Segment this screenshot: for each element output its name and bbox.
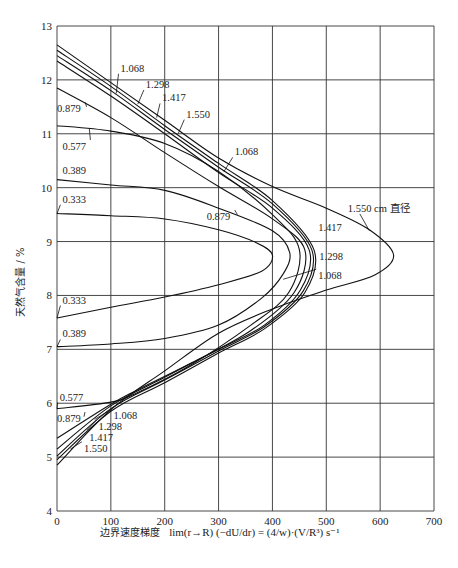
- y-axis-label: 天然气含量 / %: [14, 247, 26, 316]
- curve-label: 0.333: [62, 194, 86, 205]
- curve-label: 0.389: [62, 328, 86, 339]
- y-tick-label: 8: [47, 289, 53, 301]
- x-axis-label-formula: lim(r→R) (−dU/dr) = (4/w)·(V/R³) s⁻¹: [169, 526, 339, 538]
- curve-label: 1.068: [235, 146, 259, 157]
- y-tick-label: 12: [41, 74, 52, 86]
- curve-label: 0.879: [57, 413, 81, 424]
- y-tick-label: 9: [47, 236, 53, 248]
- chart: 010020030040050060070045678910111213 1.0…: [0, 0, 458, 568]
- curve-label: 1.068: [121, 63, 145, 74]
- curve-label: 1.298: [98, 421, 122, 432]
- x-tick-label: 700: [426, 515, 443, 527]
- curve-label: 1.550: [186, 109, 210, 120]
- y-tick-label: 4: [47, 505, 53, 517]
- curve-label: 1.417: [89, 432, 113, 443]
- y-tick-label: 7: [47, 343, 53, 355]
- curve-label: 1.298: [146, 79, 170, 90]
- curve-label: 0.577: [60, 392, 84, 403]
- leader-line: [89, 128, 90, 140]
- curve-label: 0.577: [62, 141, 86, 152]
- curve-label: 1.550 cm 直径: [348, 202, 411, 214]
- y-tick-label: 11: [41, 128, 52, 140]
- curve-label: 0.879: [207, 211, 231, 222]
- leader-line: [57, 205, 60, 214]
- leader-line: [84, 412, 85, 417]
- y-tick-label: 13: [41, 20, 53, 32]
- x-axis-label: 边界速度梯度 lim(r→R) (−dU/dr) = (4/w)·(V/R³) …: [100, 524, 340, 539]
- curve-label: 0.333: [62, 295, 86, 306]
- curve-label: 1.068: [114, 410, 138, 421]
- curve-label: 1.068: [318, 270, 342, 281]
- curve-label: 1.417: [318, 222, 342, 233]
- leader-line: [138, 90, 144, 104]
- y-tick-label: 6: [47, 397, 53, 409]
- curve-label: 1.298: [319, 251, 343, 262]
- grid: [57, 26, 434, 511]
- curve-label: 0.879: [57, 103, 81, 114]
- y-tick-label: 10: [41, 182, 53, 194]
- curve-labels: 1.0681.2981.4171.5500.8790.5771.0680.389…: [57, 63, 411, 454]
- curve-0.577: [57, 126, 300, 409]
- curve-label: 0.389: [62, 165, 86, 176]
- curves: [57, 45, 394, 465]
- leader-line: [57, 339, 60, 346]
- curve-label: 1.417: [162, 92, 186, 103]
- curve-1.550: [57, 45, 394, 465]
- curve-label: 1.550: [84, 443, 108, 454]
- x-tick-label: 600: [372, 515, 389, 527]
- x-tick-label: 0: [54, 515, 60, 527]
- y-tick-label: 5: [47, 451, 53, 463]
- leader-line: [57, 306, 60, 319]
- x-axis-label-text: 边界速度梯度: [100, 527, 160, 538]
- leader-line: [360, 214, 370, 231]
